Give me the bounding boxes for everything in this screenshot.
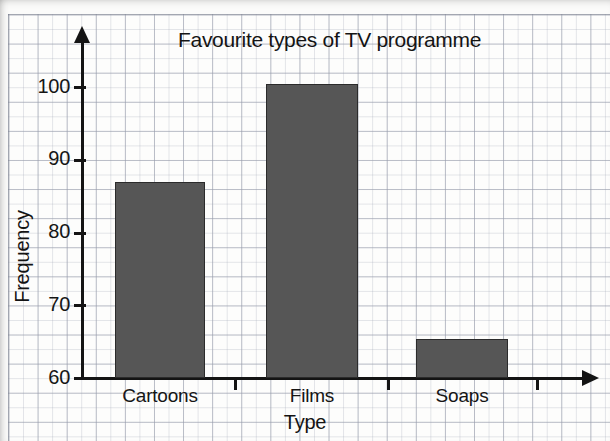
y-axis-tick-label: 60 bbox=[10, 366, 70, 389]
x-axis-arrow-icon bbox=[582, 370, 599, 386]
chart-title: Favourite types of TV programme bbox=[178, 28, 481, 52]
bar-chart-plot: Favourite types of TV programme 60708090… bbox=[0, 0, 610, 441]
y-axis-tick bbox=[74, 304, 86, 307]
y-axis-arrow-icon bbox=[74, 26, 90, 43]
x-axis-title: Type bbox=[0, 411, 610, 434]
y-axis-tick-label: 90 bbox=[10, 147, 70, 170]
y-axis-tick bbox=[74, 86, 86, 89]
y-axis-tick bbox=[74, 159, 86, 162]
bar-soaps bbox=[416, 339, 508, 379]
chart-page: Favourite types of TV programme 60708090… bbox=[0, 0, 610, 441]
y-axis-line bbox=[81, 40, 84, 380]
bar-films bbox=[266, 84, 358, 378]
y-axis-tick-label: 100 bbox=[10, 75, 70, 98]
y-axis-tick bbox=[74, 232, 86, 235]
y-axis-title: Frequency bbox=[11, 192, 34, 322]
bar-cartoons bbox=[115, 182, 205, 378]
x-axis-label-soaps: Soaps bbox=[371, 385, 553, 407]
y-axis-tick bbox=[74, 377, 86, 380]
